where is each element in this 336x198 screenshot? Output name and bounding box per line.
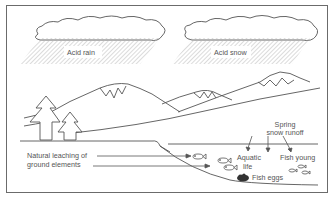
acid-rain-label: Acid rain — [67, 49, 95, 56]
rain-cloud — [35, 16, 165, 41]
fish-icon — [224, 165, 237, 170]
fish-young-icon — [298, 165, 306, 168]
fish-eggs-icon — [237, 174, 249, 182]
spring-runoff-line2: snow runoff — [266, 129, 303, 137]
fish-young-icon — [289, 169, 297, 172]
leaching-label: Natural leaching of ground elements — [27, 152, 87, 169]
fish-young-icon — [302, 171, 310, 174]
snow-cloud — [185, 16, 318, 41]
aquatic-line2: life — [237, 163, 261, 172]
leaching-line2: ground elements — [27, 161, 87, 170]
aquatic-life-label: Aquatic life — [237, 154, 261, 171]
spring-runoff-label: Spring snow runoff — [266, 121, 303, 138]
acid-snow-label: Acid snow — [214, 49, 247, 56]
fish-icon — [218, 158, 231, 163]
leaching-arrows — [93, 154, 210, 168]
trees — [30, 96, 82, 140]
fish-eggs-label: Fish eggs — [252, 174, 283, 181]
fish-young-label: Fish young — [280, 154, 315, 161]
fish-icon — [193, 154, 206, 159]
